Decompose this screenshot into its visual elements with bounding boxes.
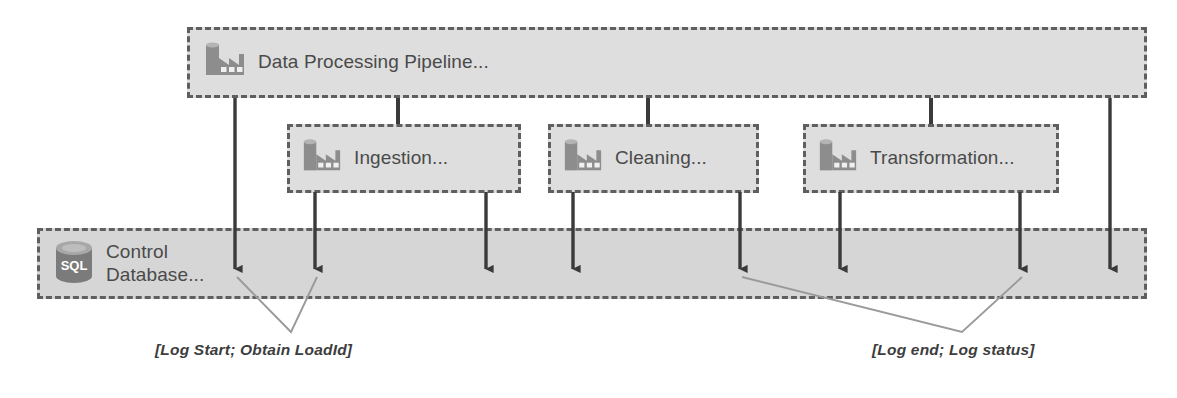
factory-icon — [300, 136, 344, 182]
factory-icon — [202, 39, 248, 87]
annotation-log-end: [Log end; Log status] — [872, 341, 1035, 359]
svg-text:SQL: SQL — [61, 258, 88, 273]
factory-icon — [816, 136, 860, 182]
stage-label: Transformation... — [870, 147, 1015, 169]
diagram-canvas: Data Processing Pipeline... Ingestion... — [0, 0, 1177, 398]
stage-transformation[interactable]: Transformation... — [803, 124, 1059, 193]
pipeline-container[interactable]: Data Processing Pipeline... — [187, 27, 1147, 98]
stage-label: Ingestion... — [354, 147, 448, 169]
factory-icon — [561, 136, 605, 182]
stage-cleaning[interactable]: Cleaning... — [548, 124, 759, 193]
stage-label: Cleaning... — [615, 147, 707, 169]
control-database-container[interactable]: SQL Control Database... — [37, 228, 1147, 299]
control-database-label: Control Database... — [106, 241, 204, 286]
annotation-log-start: [Log Start; Obtain LoadId] — [155, 341, 352, 359]
sql-database-icon: SQL — [52, 239, 96, 289]
stage-ingestion[interactable]: Ingestion... — [287, 124, 521, 193]
pipeline-label: Data Processing Pipeline... — [258, 51, 489, 73]
